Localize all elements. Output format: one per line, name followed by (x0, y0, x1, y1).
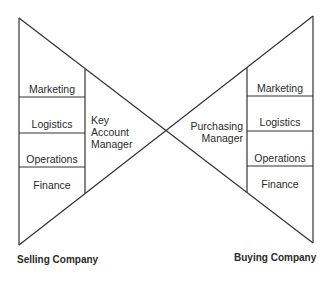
selling-dept-operations: Operations (19, 153, 85, 165)
buying-dept-marketing: Marketing (247, 82, 313, 94)
bow-tie-diagram (0, 0, 330, 281)
buying-dept-logistics: Logistics (247, 116, 313, 128)
key-account-manager-label: Key Account Manager (91, 114, 132, 150)
selling-dept-logistics: Logistics (19, 118, 85, 130)
selling-dept-finance: Finance (19, 179, 85, 191)
buying-dept-finance: Finance (247, 178, 313, 190)
buying-dept-operations: Operations (247, 152, 313, 164)
purchasing-manager-label: Purchasing Manager (187, 120, 243, 144)
selling-dept-marketing: Marketing (19, 83, 85, 95)
selling-company-title: Selling Company (17, 254, 98, 265)
buying-company-title: Buying Company (234, 252, 316, 263)
